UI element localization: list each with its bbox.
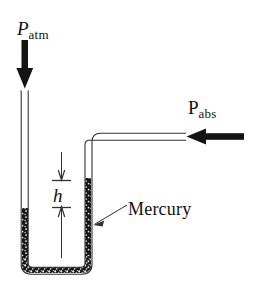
tube-outer-wall [21, 90, 92, 274]
tube-inner-wall [28, 90, 85, 267]
label-p-abs: Pabs [188, 98, 217, 117]
manometer-drawing [0, 0, 262, 295]
tube-outline [21, 90, 186, 274]
p-abs-arrow [187, 128, 245, 144]
label-p-atm-subscript: atm [29, 27, 49, 42]
p-abs-arrow-head [187, 128, 207, 144]
tube-corner-inner [85, 140, 186, 147]
label-p-abs-subscript: abs [199, 106, 217, 121]
p-atm-arrow-head [16, 68, 33, 89]
label-p-atm-symbol: P [17, 18, 29, 39]
p-atm-arrow-shaft [22, 40, 29, 72]
p-atm-arrow [16, 40, 33, 89]
mercury-bottom-bend [22, 255, 91, 273]
label-p-atm: Patm [17, 19, 49, 38]
label-mercury: Mercury [128, 200, 191, 218]
manometer-figure: Patm Pabs h Mercury [0, 0, 262, 295]
label-p-abs-symbol: P [188, 97, 199, 118]
p-abs-arrow-shaft [204, 133, 244, 140]
mercury-leader-line [95, 205, 127, 224]
label-h: h [53, 186, 63, 205]
mercury-leader [93, 205, 127, 226]
